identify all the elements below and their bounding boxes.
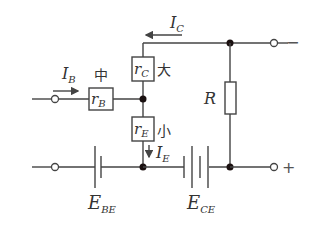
ic-label: IC: [169, 13, 184, 34]
minus-sign: −: [286, 33, 299, 52]
rb-annotation: 中: [94, 67, 108, 83]
base-terminal[interactable]: [52, 96, 59, 103]
re-annotation: 小: [157, 123, 171, 139]
bottom-right-terminal[interactable]: [271, 164, 278, 171]
ie-label: IE: [155, 143, 170, 164]
circuit-diagram: − IC rC 大 rB 中 IB rE 小 IE EBE ECE R +: [0, 0, 322, 233]
ece-label: ECE: [186, 192, 216, 215]
r-label: R: [203, 89, 216, 108]
plus-sign: +: [282, 158, 295, 177]
rc-annotation: 大: [157, 62, 171, 78]
emitter-terminal[interactable]: [52, 164, 59, 171]
top-right-terminal[interactable]: [271, 40, 278, 47]
ib-label: IB: [61, 64, 76, 85]
ebe-label: EBE: [87, 192, 116, 215]
r-resistor: [225, 82, 236, 114]
base-node: [140, 96, 147, 103]
